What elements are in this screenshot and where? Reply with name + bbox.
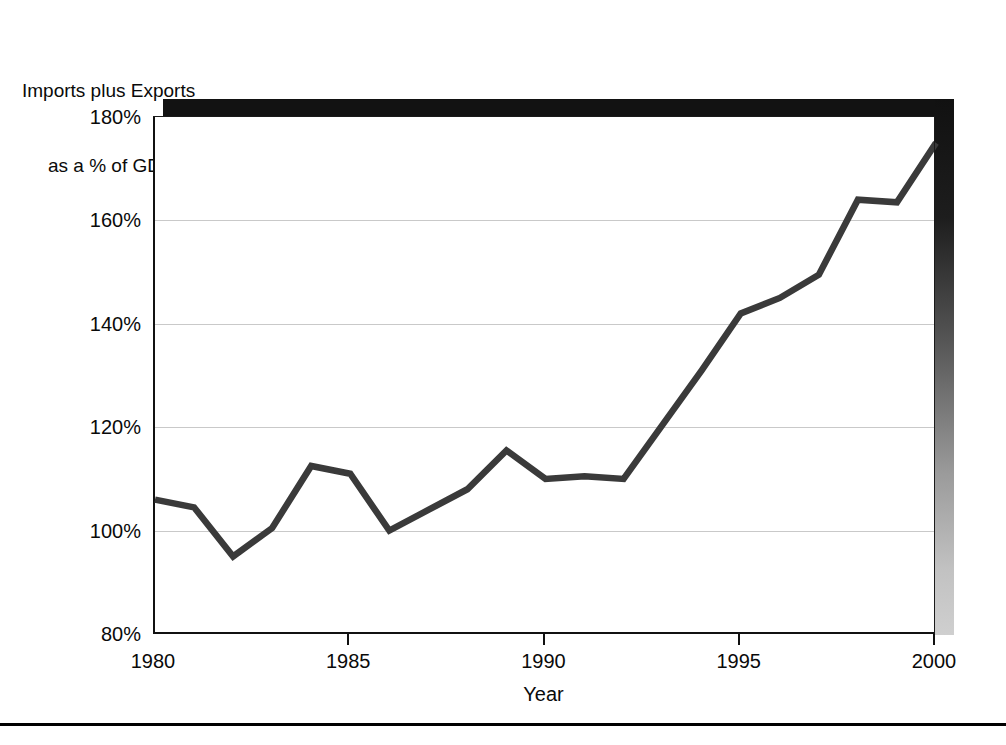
x-tick-label-2000: 2000: [874, 650, 994, 673]
y-tick-label-120: 120%: [49, 416, 141, 439]
y-tick-label-180: 180%: [49, 106, 141, 129]
x-tick-label-1995: 1995: [679, 650, 799, 673]
x-axis-ticks: [153, 634, 934, 646]
x-tick-label-1980: 1980: [93, 650, 213, 673]
x-axis-tick-labels: 19801985199019952000: [153, 650, 934, 676]
y-axis-tick-labels: 180%160%140%120%100%80%: [46, 117, 141, 634]
y-tick-label-140: 140%: [49, 313, 141, 336]
y-tick-label-160: 160%: [49, 209, 141, 232]
x-tick-label-1990: 1990: [484, 650, 604, 673]
y-tick-label-100: 100%: [49, 520, 141, 543]
x-tick-1985: [347, 634, 349, 645]
x-tick-1990: [543, 634, 545, 645]
x-tick-2000: [933, 634, 935, 645]
line-series-path: [155, 143, 936, 557]
x-tick-1995: [738, 634, 740, 645]
y-tick-label-80: 80%: [49, 623, 141, 646]
x-axis-title: Year: [153, 683, 934, 706]
chart-shadow-right: [935, 99, 954, 635]
x-tick-label-1985: 1985: [288, 650, 408, 673]
line-series-svg: [155, 117, 936, 634]
chart-area: [153, 117, 934, 634]
bottom-divider-rule: [0, 723, 1006, 726]
plot-frame: [153, 117, 934, 634]
